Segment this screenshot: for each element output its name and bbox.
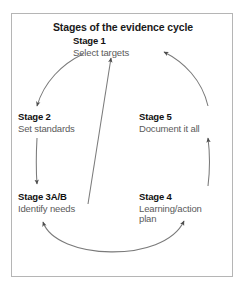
stage-3-subtitle: Identify needs [18,204,75,215]
stage-5-subtitle: Document it all [139,124,200,135]
arrow-stage5-to-stage1 [164,52,208,106]
page-title: Stages of the evidence cycle [12,21,234,33]
stage-2-subtitle: Set standards [18,124,75,135]
stage-node-1: Stage 1 Select targets [73,36,129,58]
stage-node-5: Stage 5 Document it all [139,112,200,134]
arrow-stage3-stage4-bidirectional [43,221,184,252]
stage-5-heading: Stage 5 [139,112,200,123]
stage-3-heading: Stage 3A/B [18,192,75,203]
stage-2-heading: Stage 2 [18,112,75,123]
evidence-cycle-figure: Stages of the evidence cycle Stage 1 Sel… [11,13,233,277]
stage-4-subtitle-line-2: plan [139,214,202,225]
arrow-stage2-to-stage3 [36,138,37,184]
stage-1-subtitle: Select targets [73,48,129,59]
arrow-stage3-to-stage1 [88,58,111,204]
arrow-stage4-to-stage5 [208,138,210,186]
stage-node-2: Stage 2 Set standards [18,112,75,134]
stage-4-subtitle: Learning/action plan [139,204,202,225]
stage-4-heading: Stage 4 [139,192,202,203]
stage-1-heading: Stage 1 [73,36,129,47]
stage-node-4: Stage 4 Learning/action plan [139,192,202,225]
arrow-stage1-to-stage2 [37,54,83,106]
stage-node-3: Stage 3A/B Identify needs [18,192,75,214]
